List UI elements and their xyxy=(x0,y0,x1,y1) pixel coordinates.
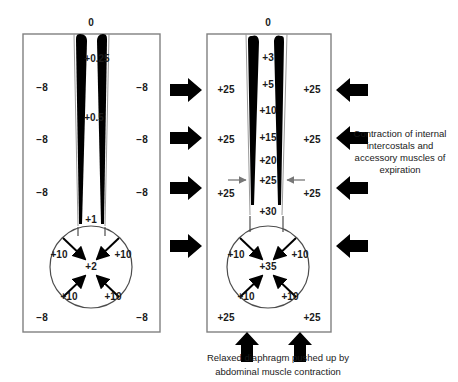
left-airway-pressure-label-3: +1 xyxy=(85,215,96,225)
left-force-arrow-4 xyxy=(170,234,202,258)
left-diaphragm-label-4: +10 xyxy=(105,292,122,302)
left-airway-pressure-label-1: +0.25 xyxy=(84,54,109,64)
right-force-arrow-3 xyxy=(336,176,368,200)
right-pleural-label-7: +25 xyxy=(218,313,235,323)
right-airway-pressure-label-2: +5 xyxy=(262,80,273,90)
left-pleural-label-1: −8 xyxy=(36,83,47,93)
right-alveolar-pressure-label: +35 xyxy=(260,262,277,272)
left-alveolar-pressure-label: +2 xyxy=(85,262,96,272)
right-airway-pressure-label-6: +25 xyxy=(260,176,277,186)
right-diaphragm-label-2: +10 xyxy=(292,250,309,260)
left-force-arrow-3 xyxy=(170,176,202,200)
left-mouth-pressure-label: 0 xyxy=(88,18,94,28)
right-pleural-label-5: +25 xyxy=(218,189,235,199)
right-pleural-label-6: +25 xyxy=(304,189,321,199)
left-pleural-label-6: −8 xyxy=(136,188,147,198)
right-airway-pressure-label-4: +15 xyxy=(260,133,277,143)
right-force-arrow-1 xyxy=(336,78,368,102)
left-diaphragm-label-3: +10 xyxy=(61,292,78,302)
diaphragm-caption-line-2: abdominal muscle contraction xyxy=(168,366,388,378)
left-pleural-label-5: −8 xyxy=(36,188,47,198)
right-diaphragm-label-3: +10 xyxy=(238,292,255,302)
left-airway-pressure-label-2: +0.5 xyxy=(84,113,104,123)
left-diaphragm-label-1: +10 xyxy=(51,250,68,260)
intercostal-contraction-annotation: Contraction of internal intercostals and… xyxy=(346,128,454,176)
left-pleural-label-4: −8 xyxy=(136,135,147,145)
diaphragm-caption-line-1: Relaxed diaphragm pushed up by xyxy=(168,352,388,364)
left-diaphragm-label-2: +10 xyxy=(115,250,132,260)
right-pleural-label-4: +25 xyxy=(304,135,321,145)
right-airway-pressure-label-5: +20 xyxy=(260,156,277,166)
right-pleural-label-8: +25 xyxy=(304,313,321,323)
left-force-arrow-2 xyxy=(170,126,202,150)
left-pleural-label-7: −8 xyxy=(36,313,47,323)
right-force-arrow-4 xyxy=(336,234,368,258)
right-pleural-label-1: +25 xyxy=(218,85,235,95)
right-diaphragm-label-4: +10 xyxy=(282,292,299,302)
left-force-arrow-1 xyxy=(170,78,202,102)
right-diaphragm-label-1: +10 xyxy=(228,250,245,260)
right-pleural-label-3: +25 xyxy=(218,135,235,145)
right-pleural-label-2: +25 xyxy=(304,85,321,95)
left-pleural-label-3: −8 xyxy=(36,135,47,145)
left-panel-thorax xyxy=(23,34,160,332)
right-mouth-pressure-label: 0 xyxy=(265,18,271,28)
right-airway-pressure-label-1: +3 xyxy=(262,53,273,63)
left-pleural-label-8: −8 xyxy=(136,313,147,323)
right-airway-pressure-label-7: +30 xyxy=(260,207,277,217)
left-pleural-label-2: −8 xyxy=(136,83,147,93)
right-airway-pressure-label-3: +10 xyxy=(260,106,277,116)
